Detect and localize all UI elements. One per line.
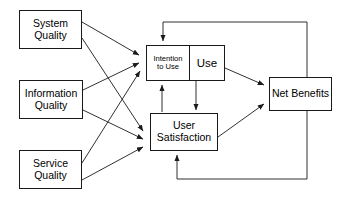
node-information-quality[interactable]: Information Quality: [19, 80, 83, 119]
node-intention-to-use[interactable]: Intention to Use: [146, 45, 190, 81]
node-use[interactable]: Use: [189, 45, 225, 81]
node-user-satisfaction[interactable]: User Satisfaction: [150, 113, 218, 151]
node-information-quality-label: Information Quality: [24, 88, 79, 112]
node-service-quality[interactable]: Service Quality: [19, 150, 82, 189]
edge-user-satisfaction-to-net-benefits: [218, 104, 264, 137]
node-net-benefits[interactable]: Net Benefits: [269, 77, 332, 111]
node-system-quality[interactable]: System Quality: [19, 10, 82, 49]
node-use-label: Use: [196, 57, 218, 70]
node-service-quality-label: Service Quality: [32, 158, 69, 182]
node-net-benefits-label: Net Benefits: [271, 88, 330, 100]
edge-system-quality-to-intention-to-use: [82, 22, 139, 55]
edge-use-to-net-benefits: [225, 68, 264, 85]
node-user-satisfaction-label: User Satisfaction: [156, 120, 212, 144]
edge-service-quality-to-user-satisfaction: [82, 147, 143, 180]
is-success-model-diagram: System Quality Information Quality Servi…: [0, 0, 346, 204]
node-intention-to-use-label: Intention to Use: [152, 55, 183, 72]
node-system-quality-label: System Quality: [32, 18, 69, 42]
edge-service-quality-to-intention-to-use: [82, 71, 140, 163]
